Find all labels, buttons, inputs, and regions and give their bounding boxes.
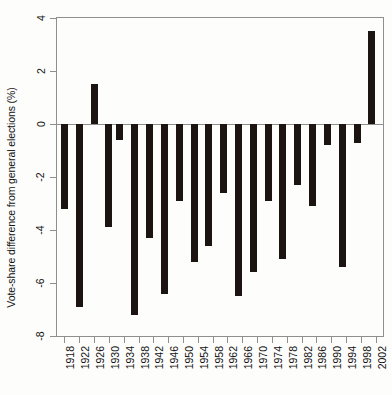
y-tick-label: 2	[0, 65, 48, 77]
y-tick-label: -6	[0, 277, 48, 289]
x-tick	[346, 337, 347, 343]
x-tick	[316, 337, 317, 343]
y-tick-label: 4	[0, 12, 48, 24]
x-tick	[213, 337, 214, 343]
bar	[116, 124, 123, 140]
y-tick-label: -4	[0, 224, 48, 236]
bar	[294, 124, 301, 185]
x-tick	[124, 337, 125, 343]
bar	[105, 124, 112, 227]
bar	[76, 124, 83, 307]
x-tick	[64, 337, 65, 343]
bar	[191, 124, 198, 262]
bar	[91, 84, 98, 124]
x-tick	[242, 337, 243, 343]
bar	[146, 124, 153, 238]
bar	[368, 31, 375, 124]
x-tick	[227, 337, 228, 343]
bar	[279, 124, 286, 259]
plot-area	[57, 18, 383, 336]
x-tick	[198, 337, 199, 343]
bar	[309, 124, 316, 206]
x-tick	[361, 337, 362, 343]
x-tick	[302, 337, 303, 343]
bar	[235, 124, 242, 296]
bar	[131, 124, 138, 315]
x-tick	[94, 337, 95, 343]
x-tick	[257, 337, 258, 343]
y-tick-label: -2	[0, 171, 48, 183]
x-tick	[183, 337, 184, 343]
x-tick	[139, 337, 140, 343]
x-tick	[153, 337, 154, 343]
bar	[61, 124, 68, 209]
bar	[205, 124, 212, 246]
x-tick	[168, 337, 169, 343]
x-tick	[272, 337, 273, 343]
y-tick-label: 0	[0, 118, 48, 130]
bar	[220, 124, 227, 193]
x-tick	[79, 337, 80, 343]
bar	[354, 124, 361, 143]
bar	[265, 124, 272, 201]
x-tick	[287, 337, 288, 343]
x-tick	[109, 337, 110, 343]
bar	[161, 124, 168, 294]
bar	[176, 124, 183, 201]
bar	[250, 124, 257, 272]
x-tick	[331, 337, 332, 343]
x-tick	[376, 337, 377, 343]
bar	[339, 124, 346, 267]
y-tick-label: -8	[0, 330, 48, 342]
chart-figure: Vote-share difference from general elect…	[0, 0, 392, 395]
bar	[324, 124, 331, 145]
